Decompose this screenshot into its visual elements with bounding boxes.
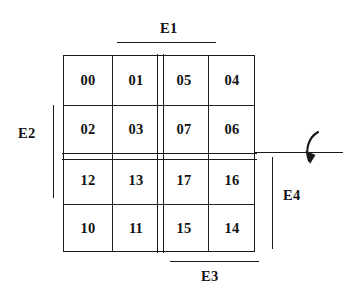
grid-cell: 14 (208, 204, 256, 253)
edge-label-e1: E1 (160, 20, 178, 37)
edge-bracket-e2 (53, 105, 54, 198)
rotation-arrow-icon (296, 128, 332, 180)
grid-cell: 12 (64, 156, 112, 204)
edge-bracket-e4 (272, 157, 273, 249)
edge-label-e3: E3 (201, 268, 219, 285)
cell-grid: 00 01 05 04 02 03 07 06 12 13 17 16 10 1… (63, 55, 255, 252)
grid-cell: 03 (112, 105, 160, 153)
grid-cell: 06 (208, 105, 256, 153)
edge-label-e2: E2 (18, 125, 36, 142)
grid-cell: 11 (112, 204, 160, 253)
grid-cell: 13 (112, 156, 160, 204)
grid-cell: 05 (160, 56, 208, 105)
grid-cell: 01 (112, 56, 160, 105)
grid-cell: 00 (64, 56, 112, 105)
grid-cell: 07 (160, 105, 208, 153)
edge-label-e4: E4 (283, 187, 301, 204)
grid-cell: 16 (208, 156, 256, 204)
grid-cell: 17 (160, 156, 208, 204)
grid-hline-center-double (62, 153, 257, 160)
edge-bracket-e3 (170, 261, 259, 262)
grid-cell: 02 (64, 105, 112, 153)
edge-bracket-e1 (117, 42, 216, 43)
grid-cell: 15 (160, 204, 208, 253)
grid-cell: 10 (64, 204, 112, 253)
grid-cell: 04 (208, 56, 256, 105)
diagram-canvas: E1 E2 E3 E4 00 01 05 04 02 03 07 06 12 1… (0, 0, 345, 303)
